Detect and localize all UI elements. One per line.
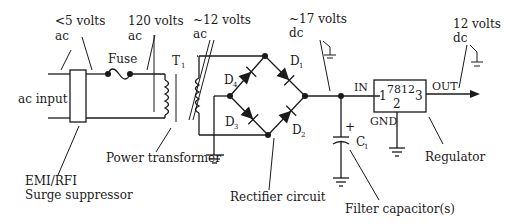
label-lt5v-line2: ac (55, 29, 69, 43)
ground-symbol-17v (323, 41, 336, 58)
label-regulator: Regulator (425, 150, 486, 164)
label-reg-pin2: 2 (393, 97, 401, 111)
fuse-symbol (105, 69, 133, 79)
label-ac-input: ac input (18, 92, 68, 106)
power-supply-schematic: <5 volts ac 120 volts ac ~12 volts ac ~1… (0, 0, 514, 224)
label-d2-sub: 2 (301, 131, 305, 139)
label-power-transformer: Power transformer (106, 151, 221, 165)
label-rectifier-circuit: Rectifier circuit (230, 190, 326, 204)
transformer-primary-coil (165, 74, 169, 118)
label-d3-sub: 3 (234, 123, 238, 131)
emi-rfi-suppressor (70, 70, 86, 122)
label-cap-plus: + (345, 120, 355, 134)
label-emi-line2: Surge suppressor (25, 188, 133, 202)
label-filter-capacitor: Filter capacitor(s) (345, 202, 455, 216)
ground-symbol-12v (470, 45, 483, 66)
label-reg-part: 7812 (387, 83, 415, 96)
label-12vdc-line1: 12 volts (453, 17, 501, 31)
label-d4-sub: 4 (233, 81, 238, 89)
label-fuse: Fuse (108, 52, 137, 66)
label-lt5v-line1: <5 volts (55, 14, 105, 28)
label-reg-out: OUT (432, 80, 458, 93)
label-17vdc-line2: dc (289, 26, 304, 40)
label-12vac-line2: ac (193, 27, 207, 41)
label-c1-sub: 1 (364, 143, 368, 151)
label-12vac-line1: ~12 volts (193, 13, 251, 27)
label-emi-line1: EMI/RFI (25, 174, 77, 188)
label-reg-pin1: 1 (379, 89, 387, 103)
label-reg-pin3: 3 (415, 89, 423, 103)
filter-capacitor-c1 (333, 96, 349, 186)
label-120v-line2: ac (128, 29, 142, 43)
label-transformer-ref: T (172, 54, 180, 68)
label-17vdc-line1: ~17 volts (289, 12, 347, 26)
label-120v-line1: 120 volts (128, 14, 184, 28)
label-d1-sub: 1 (299, 62, 303, 70)
label-transformer-ref-sub: 1 (181, 62, 185, 70)
label-12vdc-line2: dc (453, 31, 468, 45)
label-reg-gnd: GND (370, 115, 397, 128)
label-reg-in: IN (354, 81, 368, 94)
